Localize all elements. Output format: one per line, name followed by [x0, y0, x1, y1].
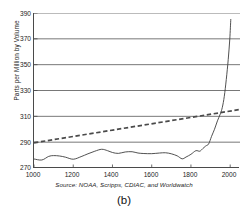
- source-note: Source: NOAA, Scripps, CDIAC, and Worldw…: [0, 181, 248, 188]
- y-tick-310: 310: [9, 113, 31, 120]
- y-tick-370: 370: [9, 35, 31, 42]
- series-line-linear-trend: [34, 109, 240, 142]
- x-tick-1000: 1000: [18, 171, 48, 179]
- y-tick-marks: [34, 13, 38, 168]
- x-tick-1200: 1200: [57, 171, 87, 179]
- x-tick-1400: 1400: [96, 171, 126, 179]
- y-tick-390: 390: [9, 10, 31, 17]
- plot-area: [33, 13, 239, 168]
- x-tick-2000: 2000: [214, 171, 244, 179]
- y-tick-350: 350: [9, 61, 31, 68]
- figure-panel-b: Parts per Million by Volume 390 370 350 …: [0, 0, 248, 215]
- x-tick-marks: [34, 165, 230, 169]
- y-tick-270: 270: [9, 164, 31, 171]
- chart-canvas: [34, 13, 240, 168]
- y-tick-290: 290: [9, 139, 31, 146]
- panel-caption: (b): [0, 194, 248, 206]
- x-tick-1800: 1800: [175, 171, 205, 179]
- x-tick-1600: 1600: [136, 171, 166, 179]
- series-line-co2: [34, 19, 231, 160]
- gridlines: [34, 13, 240, 142]
- y-tick-330: 330: [9, 87, 31, 94]
